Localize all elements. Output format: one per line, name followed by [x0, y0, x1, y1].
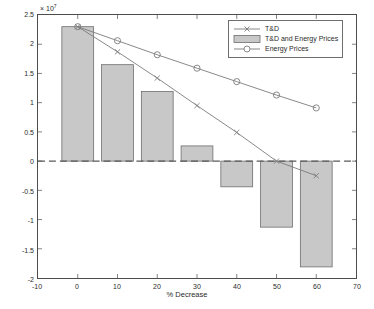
bar: [141, 92, 173, 162]
legend-cross-marker-icon: [232, 24, 262, 34]
bar: [300, 161, 332, 267]
x-tick-label: 20: [153, 283, 161, 290]
x-tick-label: 70: [353, 283, 361, 290]
y-tick-label: 2.5: [14, 11, 34, 18]
legend-marker-circle: [244, 46, 250, 52]
y-tick-label: 1.5: [14, 69, 34, 76]
bar: [62, 27, 94, 161]
bar-series-t-and-d-and-energy-prices: [62, 27, 332, 267]
x-tick-label: 40: [233, 283, 241, 290]
y-tick-label: 0: [14, 158, 34, 165]
y-axis-exponent-label: × 107: [40, 3, 57, 12]
y-tick-label: 0.5: [14, 128, 34, 135]
legend-item-label: T&D and Energy Prices: [265, 34, 338, 44]
x-axis-title: % Decrease: [0, 290, 374, 299]
y-tick-label: -2: [14, 276, 34, 283]
legend-swatch-patch-icon: [232, 34, 262, 44]
bar: [221, 161, 253, 187]
y-tick-label: -0.5: [14, 187, 34, 194]
bar: [102, 65, 134, 161]
x-tick-label: 50: [273, 283, 281, 290]
x-tick-label: 10: [113, 283, 121, 290]
x-tick-label: 60: [313, 283, 321, 290]
marker-cross: [115, 49, 120, 54]
legend-item-label: Energy Prices: [265, 44, 309, 54]
legend-circle-marker-icon: [232, 44, 262, 54]
legend-item[interactable]: T&D and Energy Prices: [232, 34, 338, 44]
y-axis-exponent-power: 7: [54, 3, 57, 9]
y-tick-label: 1: [14, 99, 34, 106]
patch-swatch: [234, 36, 260, 43]
marker-cross: [194, 103, 199, 108]
bar: [261, 161, 293, 227]
legend-item-label: T&D: [265, 24, 279, 34]
y-axis-exponent-base: × 10: [40, 5, 54, 12]
x-tick-label: -10: [32, 283, 42, 290]
chart-figure: × 107 NPV (€) % Decrease -2-1.5-1-0.500.…: [0, 0, 374, 309]
marker-cross: [155, 76, 160, 81]
marker-cross: [234, 130, 239, 135]
x-tick-label: 0: [75, 283, 79, 290]
legend-item[interactable]: T&D: [232, 24, 338, 34]
x-tick-label: 30: [193, 283, 201, 290]
y-tick-label: -1.5: [14, 246, 34, 253]
legend-item[interactable]: Energy Prices: [232, 44, 338, 54]
y-tick-label: 2: [14, 40, 34, 47]
bar: [181, 146, 213, 161]
chart-legend: T&DT&D and Energy PricesEnergy Prices: [228, 20, 343, 58]
marker-circle: [313, 105, 319, 111]
y-tick-label: -1: [14, 217, 34, 224]
